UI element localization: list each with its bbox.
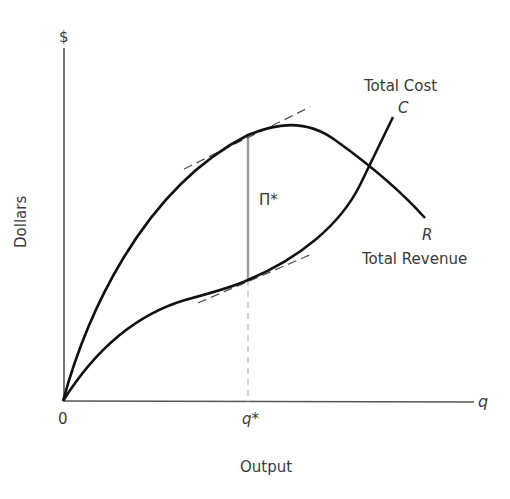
total-revenue-title: Total Revenue [362, 252, 467, 267]
total-cost-curve [63, 117, 393, 401]
y-axis-symbol: $ [59, 30, 69, 45]
x-axis [63, 401, 474, 402]
total-revenue-symbol: R [422, 228, 432, 243]
total-cost-symbol: C [398, 101, 408, 116]
profit-label: Π* [259, 193, 278, 208]
y-axis-title: Dollars [12, 196, 30, 248]
total-cost-title: Total Cost [364, 79, 437, 94]
cost-tangent [198, 254, 312, 303]
origin-label: 0 [58, 412, 68, 427]
x-axis-title: Output [240, 460, 292, 475]
x-axis-symbol: q [478, 394, 488, 410]
q-star-label: q* [242, 412, 259, 427]
